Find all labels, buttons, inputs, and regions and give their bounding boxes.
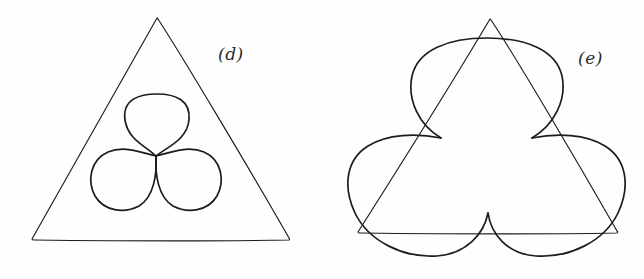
figure-d-triangle <box>32 18 290 241</box>
figure-d-group <box>32 18 290 241</box>
drawing-canvas: (d) (e) <box>0 0 644 279</box>
figure-d-label: (d) <box>218 44 244 64</box>
figures-svg <box>0 0 644 279</box>
figure-e-arc-top <box>411 38 563 138</box>
figure-e-arc-lower-right <box>488 135 625 256</box>
figure-e-arc-lower-left <box>348 135 488 256</box>
figure-d-petal-left <box>91 149 156 210</box>
figure-d-petal-right <box>156 149 221 210</box>
figure-d-petal-top <box>125 94 189 156</box>
figure-e-label: (e) <box>578 48 603 68</box>
